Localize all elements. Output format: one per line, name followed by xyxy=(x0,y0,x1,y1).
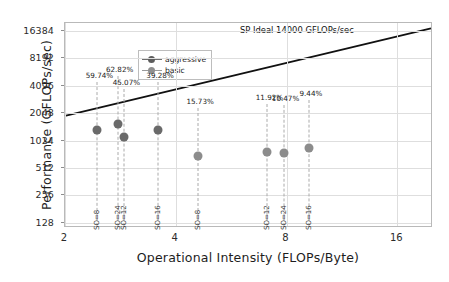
datapoint-so-label: SO=8 xyxy=(93,210,101,230)
x-axis-tick-labels: 24816 xyxy=(64,232,432,248)
gridline-horizontal xyxy=(65,141,431,142)
roofline-chart-figure: Performance (GFLOPs/sec) 128256512102420… xyxy=(0,0,449,282)
datapoint-marker[interactable] xyxy=(279,148,288,157)
y-tick-label: 4096 xyxy=(29,79,54,90)
x-tick-label: 16 xyxy=(390,232,403,243)
x-axis-title: Operational Intensity (FLOPs/Byte) xyxy=(64,250,432,265)
x-tick-label: 4 xyxy=(172,232,178,243)
gridline-vertical xyxy=(65,23,66,226)
datapoint-percent-label: 10.47% xyxy=(272,94,299,103)
x-tick-label: 2 xyxy=(61,232,67,243)
gridline-vertical xyxy=(397,23,398,226)
datapoint-percent-label: 15.73% xyxy=(186,97,213,106)
datapoint-dropline xyxy=(97,82,98,226)
datapoint-so-label: SO=12 xyxy=(263,205,271,230)
plot-area: SP Ideal 14000 GFLOPs/sec aggressive bas… xyxy=(64,22,432,227)
datapoint-marker[interactable] xyxy=(304,143,313,152)
y-tick-label: 256 xyxy=(36,189,54,200)
datapoint-percent-label: 9.44% xyxy=(299,89,322,98)
datapoint-dropline xyxy=(198,108,199,226)
datapoint-so-label: SO=16 xyxy=(305,205,313,230)
gridline-horizontal xyxy=(65,195,431,196)
datapoint-marker[interactable] xyxy=(120,132,129,141)
y-tick-label: 1024 xyxy=(29,134,54,145)
datapoint-marker[interactable] xyxy=(154,126,163,135)
gridline-horizontal xyxy=(65,113,431,114)
gridline-horizontal xyxy=(65,58,431,59)
datapoint-so-label: SO=24 xyxy=(280,205,288,230)
y-tick-label: 16384 xyxy=(23,24,54,35)
datapoint-percent-label: 62.82% xyxy=(106,65,133,74)
datapoint-dropline xyxy=(117,76,118,226)
y-tick-label: 512 xyxy=(36,161,54,172)
datapoint-marker[interactable] xyxy=(194,151,203,160)
y-axis-tick-labels: 128256512102420484096819216384 xyxy=(0,22,60,227)
datapoint-so-label: SO=12 xyxy=(120,205,128,230)
datapoint-percent-label: 45.07% xyxy=(113,78,140,87)
datapoint-marker[interactable] xyxy=(263,148,272,157)
datapoint-marker[interactable] xyxy=(93,126,102,135)
gridline-horizontal xyxy=(65,31,431,32)
gridline-vertical xyxy=(176,23,177,226)
y-tick-label: 128 xyxy=(36,216,54,227)
y-tick-label: 2048 xyxy=(29,107,54,118)
datapoint-marker[interactable] xyxy=(113,119,122,128)
gridline-horizontal xyxy=(65,168,431,169)
gridline-vertical xyxy=(287,23,288,226)
y-tick-label: 8192 xyxy=(29,52,54,63)
datapoint-so-label: SO=8 xyxy=(194,210,202,230)
datapoint-percent-label: 39.28% xyxy=(146,71,173,80)
datapoint-so-label: SO=16 xyxy=(154,205,162,230)
x-tick-label: 8 xyxy=(282,232,288,243)
